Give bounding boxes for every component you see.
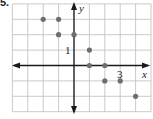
data-point bbox=[56, 17, 61, 22]
data-point bbox=[87, 48, 92, 53]
x-axis-label: x bbox=[141, 68, 147, 80]
data-point bbox=[133, 94, 138, 99]
data-point bbox=[41, 17, 46, 22]
data-point bbox=[56, 32, 61, 37]
axes bbox=[12, 2, 150, 114]
y-tick-label: 1 bbox=[65, 44, 71, 56]
x-axis-left-arrow-icon bbox=[12, 63, 20, 69]
y-axis-top-arrow-icon bbox=[71, 2, 77, 10]
data-point bbox=[102, 63, 107, 68]
x-tick-label: 3 bbox=[117, 68, 123, 80]
data-point bbox=[71, 32, 76, 37]
data-point bbox=[87, 63, 92, 68]
data-point bbox=[118, 78, 123, 83]
grid-lines bbox=[12, 4, 151, 112]
data-point bbox=[102, 78, 107, 83]
coordinate-plane: y x 1 3 bbox=[0, 0, 153, 119]
y-axis-label: y bbox=[78, 2, 84, 14]
y-axis-bottom-arrow-icon bbox=[71, 106, 77, 114]
